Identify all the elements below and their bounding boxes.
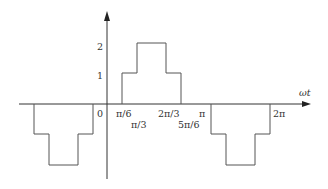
y-tick-label-1: 1 <box>97 70 103 81</box>
x-axis-arrow-icon <box>302 101 311 107</box>
x-tick-label-5pi-6: 5π/6 <box>178 119 200 130</box>
negative-pulse-right <box>211 104 270 165</box>
negative-pulse-left <box>34 104 93 165</box>
x-tick-label-2pi: 2π <box>273 108 285 119</box>
waveform-diagram: 2 1 0 π/6 π/3 2π/3 5π/6 π 2π ωt <box>0 0 328 189</box>
x-tick-label-pi-6: π/6 <box>116 108 132 119</box>
x-tick-label-pi: π <box>199 108 205 119</box>
x-tick-label-pi-3: π/3 <box>131 119 147 130</box>
origin-label: 0 <box>97 108 103 119</box>
x-axis-label: ωt <box>299 87 311 98</box>
y-tick-label-2: 2 <box>97 41 103 52</box>
y-axis-arrow-icon <box>104 11 110 21</box>
positive-pulse <box>122 43 181 104</box>
x-tick-label-2pi-3: 2π/3 <box>158 108 180 119</box>
